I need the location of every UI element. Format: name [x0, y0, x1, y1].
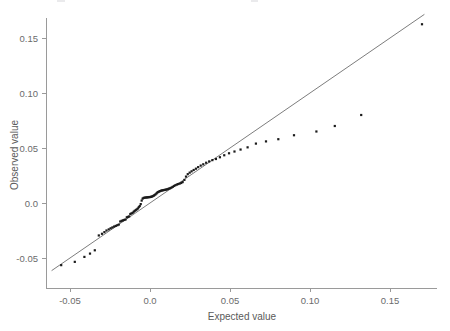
data-point — [94, 249, 96, 251]
data-point — [191, 170, 193, 172]
x-tick-label: 0.0 — [143, 295, 156, 306]
data-point — [211, 159, 213, 161]
y-tick-label: 0.15 — [20, 33, 39, 44]
x-tick-label: -0.05 — [59, 295, 81, 306]
data-point — [233, 150, 235, 152]
data-point — [83, 256, 85, 258]
data-point — [98, 234, 100, 236]
data-point — [277, 138, 279, 140]
data-point — [265, 140, 267, 142]
data-point — [74, 261, 76, 263]
data-point — [195, 168, 197, 170]
data-point — [205, 162, 207, 164]
data-points-layer — [60, 23, 423, 266]
data-point — [185, 176, 187, 178]
data-point — [193, 169, 195, 171]
x-tick-label: 0.05 — [221, 295, 240, 306]
data-point — [293, 134, 295, 136]
data-point — [189, 172, 191, 174]
y-tick-label: -0.05 — [16, 253, 38, 264]
data-point — [239, 148, 241, 150]
data-point — [89, 253, 91, 255]
data-point — [197, 166, 199, 168]
data-point — [187, 173, 189, 175]
data-point — [124, 218, 126, 220]
data-point — [108, 228, 110, 230]
data-point — [421, 23, 423, 25]
x-tick-label: 0.15 — [381, 295, 400, 306]
data-point — [141, 199, 143, 201]
y-tick-label: 0.10 — [20, 88, 39, 99]
data-point — [183, 179, 185, 181]
identity-line — [52, 14, 425, 270]
data-point — [208, 160, 210, 162]
data-point — [101, 233, 103, 235]
data-point — [228, 152, 230, 154]
data-point — [105, 229, 107, 231]
x-tick-label: 0.10 — [301, 295, 320, 306]
data-point — [139, 205, 141, 207]
data-point — [128, 215, 130, 217]
data-point — [247, 146, 249, 148]
data-point — [255, 143, 257, 145]
data-point — [219, 156, 221, 158]
qq-plot-canvas: -0.050.00.050.100.15-0.050.00.050.100.15… — [0, 0, 450, 331]
axis-layer: -0.050.00.050.100.15-0.050.00.050.100.15 — [16, 18, 437, 306]
y-tick-label: 0.05 — [20, 143, 39, 154]
data-point — [315, 130, 317, 132]
data-point — [334, 125, 336, 127]
qq-plot-figure: -0.050.00.050.100.15-0.050.00.050.100.15… — [0, 0, 450, 331]
y-axis-title: Observed value — [9, 120, 20, 190]
x-axis-title: Expected value — [208, 311, 277, 322]
data-point — [118, 223, 120, 225]
data-point — [215, 158, 217, 160]
y-tick-label: 0.0 — [25, 198, 38, 209]
data-point — [360, 114, 362, 116]
data-point — [200, 165, 202, 167]
data-point — [202, 163, 204, 165]
data-point — [103, 231, 105, 233]
data-point — [60, 264, 62, 266]
data-point — [140, 203, 142, 205]
axis-labels-layer: Expected value Observed value — [9, 120, 277, 322]
data-point — [182, 181, 184, 183]
data-point — [223, 154, 225, 156]
reference-line-layer — [52, 14, 425, 270]
